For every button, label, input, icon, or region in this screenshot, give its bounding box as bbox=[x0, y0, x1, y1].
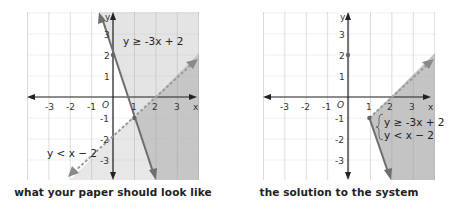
origin-label: O bbox=[337, 100, 344, 110]
left-coordinate-plane: y x O -3 -2 -1 1 2 3 3 2 1 -1 -2 -3 y ≥ … bbox=[0, 0, 226, 212]
x-tick-neg2: -2 bbox=[66, 102, 75, 112]
point-1-neg1 bbox=[367, 116, 371, 120]
inequality-label-2: y < x − 2 bbox=[47, 147, 97, 159]
x-tick-2: 2 bbox=[152, 102, 158, 112]
x-tick-neg2: -2 bbox=[301, 102, 310, 112]
right-coordinate-plane: y x O -3 -2 -1 1 2 3 3 2 1 -1 -2 -3 y ≥ … bbox=[226, 0, 452, 212]
point-1-neg1 bbox=[132, 116, 136, 120]
y-tick-1: 1 bbox=[104, 72, 110, 82]
y-tick-neg3: -3 bbox=[335, 156, 344, 166]
y-tick-2: 2 bbox=[104, 51, 110, 61]
x-tick-2: 2 bbox=[387, 102, 393, 112]
left-graph-panel: y x O -3 -2 -1 1 2 3 3 2 1 -1 -2 -3 y ≥ … bbox=[0, 0, 226, 212]
y-tick-neg2: -2 bbox=[100, 135, 109, 145]
y-axis-label: y bbox=[340, 12, 346, 22]
y-tick-neg2: -2 bbox=[335, 135, 344, 145]
y-tick-neg3: -3 bbox=[100, 156, 109, 166]
x-tick-neg3: -3 bbox=[45, 102, 54, 112]
y-tick-1: 1 bbox=[339, 72, 345, 82]
y-tick-neg1: -1 bbox=[335, 114, 344, 124]
right-caption: the solution to the system bbox=[226, 186, 452, 198]
right-graph-panel: y x O -3 -2 -1 1 2 3 3 2 1 -1 -2 -3 y ≥ … bbox=[226, 0, 452, 212]
x-tick-neg3: -3 bbox=[280, 102, 289, 112]
point-0-2 bbox=[111, 53, 115, 57]
inequality-label-1: y ≥ -3x + 2 bbox=[123, 35, 184, 47]
system-inequality-1: y ≥ -3x + 2 bbox=[384, 116, 445, 128]
y-tick-2: 2 bbox=[339, 51, 345, 61]
x-tick-neg1: -1 bbox=[87, 102, 96, 112]
x-tick-1: 1 bbox=[366, 102, 372, 112]
y-axis-label: y bbox=[105, 12, 111, 22]
origin-label: O bbox=[102, 100, 109, 110]
grid bbox=[263, 12, 435, 180]
system-inequality-2: y < x − 2 bbox=[384, 129, 434, 141]
x-tick-1: 1 bbox=[131, 102, 137, 112]
y-tick-3: 3 bbox=[104, 30, 110, 40]
y-tick-neg1: -1 bbox=[100, 114, 109, 124]
left-caption: what your paper should look like bbox=[0, 186, 226, 198]
x-tick-3: 3 bbox=[174, 102, 180, 112]
point-0-2 bbox=[346, 53, 350, 57]
x-axis-label: x bbox=[428, 102, 434, 112]
x-axis-label: x bbox=[193, 102, 199, 112]
x-tick-neg1: -1 bbox=[322, 102, 331, 112]
y-tick-3: 3 bbox=[339, 30, 345, 40]
x-tick-3: 3 bbox=[409, 102, 415, 112]
